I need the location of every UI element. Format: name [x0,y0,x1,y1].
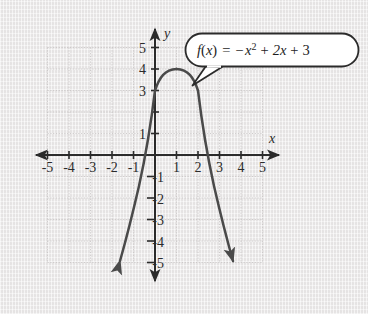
y-tick-label: -3 [152,213,164,228]
x-tick-label: 3 [216,160,223,175]
y-tick-label: -2 [152,192,164,207]
y-tick-label: -5 [152,256,164,271]
x-tick-label: 2 [195,160,202,175]
formula-close-paren: ) [212,42,217,59]
y-tick-label: 1 [139,127,146,142]
y-tick-label: 5 [139,41,146,56]
x-tick-label: 5 [259,160,266,175]
y-tick-label: 4 [139,62,146,77]
formula-term1-sign: − [235,42,243,58]
x-tick-label: -4 [63,160,75,175]
y-tick-label: 3 [139,84,146,99]
figure-canvas: -5 -4 -3 -2 -1 1 2 3 4 5 5 4 3 1 -1 -2 -… [0,0,368,314]
y-axis-label: y [162,26,171,41]
x-tick-label: -1 [128,160,140,175]
formula-plus-2: + [290,42,298,58]
x-tick-label: -3 [85,160,97,175]
formula-callout[interactable]: f(x)=−x2+2x+3 [186,34,359,86]
x-axis-label: x [268,131,276,146]
x-tick-label: -5 [42,160,54,175]
formula-term3: 3 [303,42,310,58]
x-tick-label: -2 [106,160,118,175]
formula-term2: 2x [273,42,287,58]
formula-equals: = [222,42,230,58]
x-tick-label: 4 [238,160,245,175]
x-tick-label: 1 [173,160,180,175]
graph-figure: -5 -4 -3 -2 -1 1 2 3 4 5 5 4 3 1 -1 -2 -… [0,0,368,314]
formula-plus-1: + [260,42,268,58]
curve-right-branch [177,69,234,261]
y-tick-label: -4 [152,235,164,250]
y-tick-label: -1 [152,170,164,185]
formula-term1-exponent: 2 [251,41,256,52]
